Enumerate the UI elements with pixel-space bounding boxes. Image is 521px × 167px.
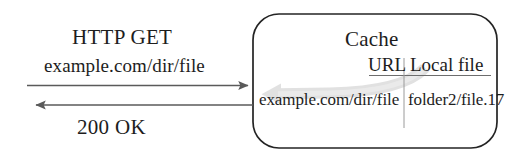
table-column-header-local-file: Local file (410, 55, 483, 74)
table-cell-local-file: folder2/file.17 (408, 91, 504, 108)
table-column-header-url: URL (368, 55, 406, 74)
request-method-label: HTTP GET (72, 27, 172, 48)
table-cell-url: example.com/dir/file (259, 91, 399, 108)
request-url-label: example.com/dir/file (44, 56, 205, 75)
diagram-canvas: HTTP GET example.com/dir/file 200 OK Cac… (0, 0, 521, 167)
response-status-label: 200 OK (77, 117, 146, 138)
cache-title: Cache (345, 29, 398, 50)
